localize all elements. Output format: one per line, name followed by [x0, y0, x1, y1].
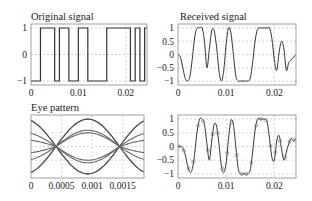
y-tick-label: 0 — [169, 50, 174, 60]
y-tick-label: −0.5 — [157, 155, 174, 165]
original-signal-title: Original signal — [31, 11, 94, 22]
x-tick-labels: 00.00050.0010.0015 — [29, 181, 136, 191]
sampled-signal-plot: −1−0.500.51 00.010.02 — [157, 114, 296, 191]
x-tick-label: 0.02 — [117, 88, 134, 98]
eye-trace — [31, 121, 144, 174]
received-signal-title: Received signal — [180, 11, 247, 22]
x-tick-label: 0.001 — [81, 181, 103, 191]
signal-path — [178, 118, 296, 174]
y-tick-labels: −1−0.500.51 — [157, 23, 174, 86]
y-tick-label: −1 — [17, 76, 27, 86]
grid — [31, 24, 147, 85]
y-tick-label: −0.5 — [157, 63, 174, 73]
y-tick-label: 0.5 — [162, 128, 174, 138]
x-tick-label: 0 — [29, 181, 34, 191]
y-tick-label: −1 — [164, 76, 174, 86]
x-tick-label: 0 — [176, 88, 181, 98]
x-tick-label: 0.01 — [70, 88, 87, 98]
x-tick-labels: 00.010.02 — [176, 181, 283, 191]
y-tick-label: 0 — [22, 50, 27, 60]
x-tick-label: 0 — [29, 88, 34, 98]
x-tick-labels: 00.010.02 — [29, 88, 135, 98]
y-tick-labels: −101 — [17, 23, 27, 86]
y-tick-label: 1 — [169, 23, 174, 33]
y-tick-label: 0 — [169, 142, 174, 152]
y-tick-labels: −1−0.500.51 — [157, 114, 174, 179]
eye-pattern-title: Eye pattern — [31, 102, 80, 113]
y-tick-label: 0.5 — [162, 37, 174, 47]
figure: Original signal −101 00.010.02 Received … — [0, 0, 312, 201]
eye-pattern-plot: Eye pattern 00.00050.0010.0015 — [29, 102, 144, 191]
grid — [31, 115, 144, 178]
eye-trace — [31, 119, 144, 172]
x-tick-label: 0.01 — [218, 88, 235, 98]
received-signal-plot: Received signal −1−0.500.51 00.010.02 — [157, 11, 296, 98]
y-tick-label: 1 — [169, 114, 174, 124]
y-tick-label: 1 — [22, 23, 27, 33]
x-tick-label: 0.0005 — [48, 181, 74, 191]
x-tick-label: 0.0015 — [110, 181, 136, 191]
x-tick-label: 0.02 — [266, 88, 283, 98]
x-tick-labels: 00.010.02 — [176, 88, 283, 98]
x-tick-label: 0.01 — [218, 181, 235, 191]
original-signal-plot: Original signal −101 00.010.02 — [17, 11, 149, 98]
x-tick-label: 0 — [176, 181, 181, 191]
x-tick-label: 0.02 — [266, 181, 283, 191]
y-tick-label: −1 — [164, 169, 174, 179]
